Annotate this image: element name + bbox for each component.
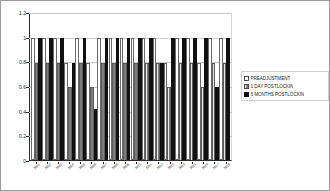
x-axis-tick: 2009 — [119, 162, 130, 180]
bar-group — [164, 14, 175, 160]
x-axis-tick: 2001 — [30, 162, 41, 180]
bar-group — [31, 14, 42, 160]
y-axis-tick-label: 0.8 — [19, 59, 26, 65]
x-axis-tick-label: 2017 — [212, 163, 220, 171]
y-axis-tick-label: 0.6 — [19, 84, 26, 90]
x-axis-tick: 2002 — [41, 162, 52, 180]
chart-legend: PREADJUSTMENT1 DAY POSTLOCKIN6 MONTHS PO… — [241, 71, 329, 101]
bar-group — [97, 14, 108, 160]
chart-figure: 00.20.40.60.811.2 2001200220032004200520… — [0, 0, 330, 191]
y-axis-tick-label: 0.2 — [19, 133, 26, 139]
x-axis-tick-label: 2014 — [178, 163, 186, 171]
legend-item-label: 6 MONTHS POSTLOCKIN — [251, 92, 305, 97]
bar-group — [131, 14, 142, 160]
bar-group — [42, 14, 53, 160]
x-axis-tick: 2014 — [175, 162, 186, 180]
figure-footer-strip — [1, 180, 329, 190]
x-axis-tick: 2016 — [198, 162, 209, 180]
x-axis-tick: 2004 — [64, 162, 75, 180]
legend-item[interactable]: PREADJUSTMENT — [244, 74, 326, 82]
x-axis-tick-label: 2006 — [89, 163, 97, 171]
x-axis: 2001200220032004200520062007200820092010… — [29, 162, 232, 180]
x-axis-tick-label: 2004 — [66, 163, 74, 171]
x-axis-tick: 2008 — [108, 162, 119, 180]
bar-group — [175, 14, 186, 160]
y-axis-tick-label: 0.4 — [19, 109, 26, 115]
bar-group — [197, 14, 208, 160]
bar-mo6 — [226, 38, 230, 160]
legend-swatch-icon — [244, 76, 249, 81]
bar-group — [108, 14, 119, 160]
bar-group — [64, 14, 75, 160]
x-axis-tick: 2005 — [75, 162, 86, 180]
y-axis: 00.20.40.60.811.2 — [1, 13, 26, 161]
legend-item[interactable]: 1 DAY POSTLOCKIN — [244, 82, 326, 90]
x-axis-tick-label: 2018 — [223, 163, 231, 171]
legend-swatch-icon — [244, 84, 249, 89]
x-axis-tick-label: 2005 — [78, 163, 86, 171]
legend-item-label: 1 DAY POSTLOCKIN — [251, 84, 294, 89]
x-axis-tick: 2013 — [164, 162, 175, 180]
bar-group — [153, 14, 164, 160]
bar-group — [219, 14, 230, 160]
x-axis-tick-label: 2003 — [55, 163, 63, 171]
x-axis-tick: 2017 — [209, 162, 220, 180]
legend-swatch-icon — [244, 92, 249, 97]
x-axis-tick: 2011 — [142, 162, 153, 180]
x-axis-tick-label: 2010 — [133, 163, 141, 171]
x-axis-tick: 2010 — [131, 162, 142, 180]
legend-item-label: PREADJUSTMENT — [251, 76, 291, 81]
x-axis-tick: 2007 — [97, 162, 108, 180]
x-axis-tick-label: 2001 — [33, 163, 41, 171]
bar-group — [53, 14, 64, 160]
x-axis-tick: 2006 — [86, 162, 97, 180]
x-axis-tick-label: 2012 — [156, 163, 164, 171]
y-axis-tick-label: 1.2 — [19, 10, 26, 16]
x-axis-tick-label: 2015 — [189, 163, 197, 171]
x-axis-tick-label: 2002 — [44, 163, 52, 171]
bar-group — [186, 14, 197, 160]
bar-group — [86, 14, 97, 160]
legend-item[interactable]: 6 MONTHS POSTLOCKIN — [244, 90, 326, 98]
bar-series-container — [30, 14, 231, 160]
plot-area — [29, 13, 232, 161]
x-axis-tick: 2012 — [153, 162, 164, 180]
x-axis-tick-label: 2011 — [145, 163, 153, 171]
x-axis-tick-label: 2008 — [111, 163, 119, 171]
bar-group — [75, 14, 86, 160]
x-axis-tick-label: 2009 — [122, 163, 130, 171]
bar-group — [142, 14, 153, 160]
x-axis-tick: 2015 — [186, 162, 197, 180]
x-axis-tick: 2018 — [220, 162, 231, 180]
x-axis-tick-label: 2013 — [167, 163, 175, 171]
x-axis-tick-label: 2016 — [200, 163, 208, 171]
bar-group — [208, 14, 219, 160]
x-axis-tick-label: 2007 — [100, 163, 108, 171]
x-axis-tick: 2003 — [52, 162, 63, 180]
bar-group — [120, 14, 131, 160]
